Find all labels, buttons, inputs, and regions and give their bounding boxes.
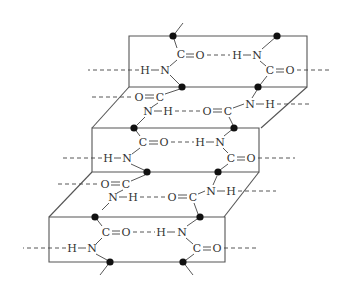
atom-h: H (265, 98, 275, 111)
atom-h: H (195, 136, 205, 149)
alpha-carbon (130, 124, 137, 131)
atom-n: N (122, 152, 132, 165)
alpha-carbon (196, 213, 203, 220)
atom-n: N (143, 105, 153, 118)
atom-h: H (140, 64, 150, 77)
atom-n: N (252, 49, 262, 62)
atom-o: O (121, 226, 130, 239)
atom-h: H (103, 152, 113, 165)
atom-o: O (212, 242, 221, 255)
atom-h: H (156, 226, 166, 239)
atom-n: N (160, 64, 170, 77)
alpha-carbon (91, 213, 98, 220)
atom-n: N (245, 98, 255, 111)
atom-c: C (193, 242, 201, 255)
alpha-carbon (169, 32, 176, 39)
alpha-carbon (179, 258, 186, 265)
atom-n: N (87, 242, 97, 255)
plane-top (129, 36, 307, 87)
atom-n: N (108, 191, 118, 204)
atom-o: O (134, 91, 143, 104)
top-plate-groups: C O H N N H C O (88, 23, 330, 91)
atom-c: C (224, 105, 232, 118)
alpha-carbon (143, 168, 150, 175)
atom-o: O (246, 152, 255, 165)
atom-c: C (227, 152, 235, 165)
fold-2-groups: O C N H O C N H (58, 175, 276, 214)
atom-o: O (159, 136, 168, 149)
atom-o: O (202, 105, 211, 118)
middle-plate-groups: C O H N N H C O (60, 124, 295, 175)
atom-o: O (167, 191, 176, 204)
alpha-carbon (106, 258, 113, 265)
atom-h: H (226, 185, 236, 198)
beta-sheet-diagram: C O H N N H C O O C N H (0, 0, 344, 298)
plane-bottom (49, 217, 225, 262)
atom-c: C (156, 91, 164, 104)
alpha-carbon (254, 83, 261, 90)
atom-c: C (122, 178, 130, 191)
atom-n: N (206, 185, 216, 198)
atom-c: C (266, 64, 274, 77)
atom-c: C (102, 226, 110, 239)
atom-o: O (195, 49, 204, 62)
atom-o: O (285, 64, 294, 77)
atom-n: N (215, 136, 225, 149)
atom-h: H (128, 191, 138, 204)
fold-left-1 (92, 87, 129, 128)
atom-h: H (232, 49, 242, 62)
atom-o: O (100, 178, 109, 191)
bottom-plate-groups: C O H N N H C O (23, 213, 258, 275)
fold-1-groups: O C N H O C N H (92, 89, 312, 125)
atom-c: C (189, 191, 197, 204)
atom-c: C (139, 136, 147, 149)
alpha-carbon (214, 168, 221, 175)
plane-middle (92, 128, 259, 172)
atom-h: H (67, 242, 77, 255)
alpha-carbon (273, 32, 280, 39)
fold-left-2 (49, 172, 92, 217)
alpha-carbon (230, 124, 237, 131)
atom-h: H (163, 105, 173, 118)
atom-n: N (177, 226, 187, 239)
atom-c: C (177, 48, 185, 61)
